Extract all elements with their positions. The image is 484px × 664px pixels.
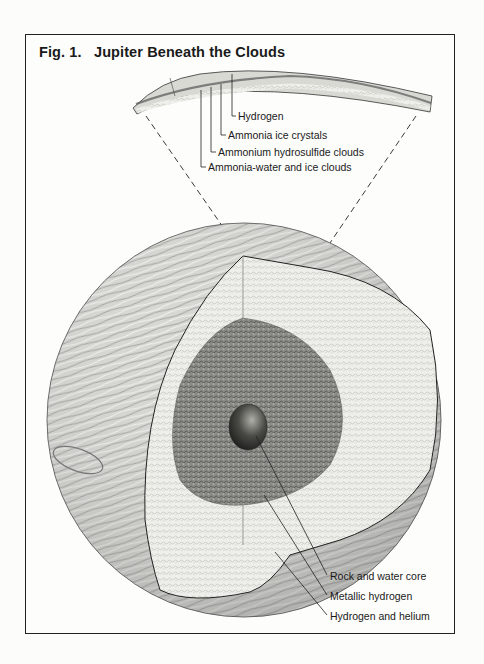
jupiter-sphere <box>47 223 441 617</box>
label-hydrogen-helium: Hydrogen and helium <box>330 610 430 622</box>
label-ammonium-hydrosulfide-clouds: Ammonium hydrosulfide clouds <box>218 146 364 158</box>
label-hydrogen: Hydrogen <box>238 110 284 122</box>
label-rock-water-core: Rock and water core <box>330 570 426 582</box>
label-ammonia-ice-crystals: Ammonia ice crystals <box>228 129 327 141</box>
jupiter-illustration <box>0 0 484 664</box>
crust-sliver <box>133 71 432 114</box>
label-metallic-hydrogen: Metallic hydrogen <box>330 590 412 602</box>
label-ammonia-water-ice-clouds: Ammonia-water and ice clouds <box>208 161 352 173</box>
